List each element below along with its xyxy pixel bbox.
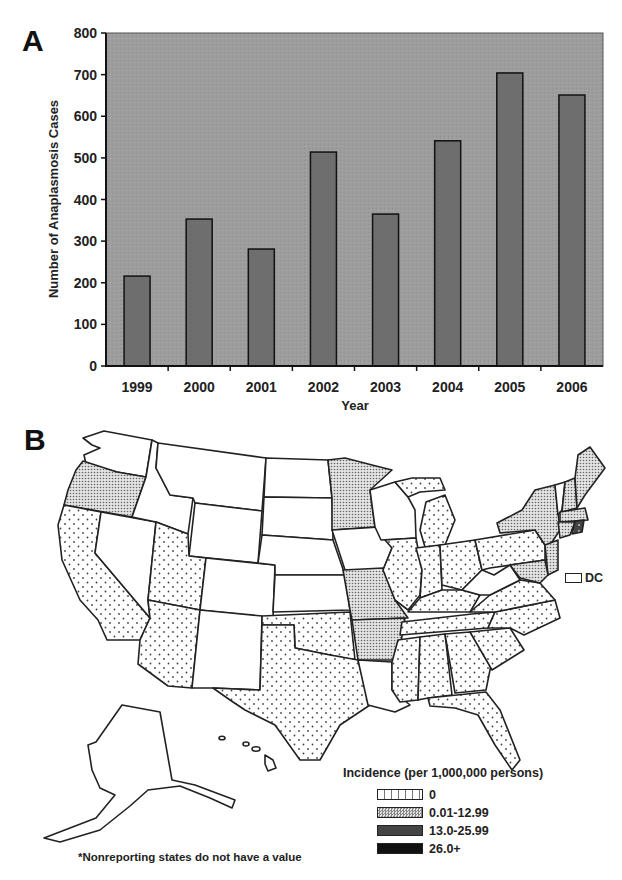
bar-2003 [373, 214, 399, 366]
state-fl [428, 692, 520, 770]
x-tick-label: 2001 [246, 379, 277, 395]
state-ms [392, 637, 420, 702]
legend-label: 26.0+ [429, 842, 461, 856]
y-tick-label: 600 [74, 108, 98, 124]
bar-2004 [435, 141, 461, 366]
state-ak [44, 705, 235, 842]
x-axis-label: Year [341, 398, 368, 413]
state-wy [189, 503, 262, 563]
state-sd [262, 497, 333, 540]
y-axis-label: Number of Anaplasmosis Cases [46, 100, 61, 298]
us-incidence-map [0, 420, 622, 850]
legend-title: Incidence (per 1,000,000 persons) [343, 766, 543, 780]
y-tick-label: 0 [89, 358, 97, 374]
x-tick-label: 2000 [184, 379, 215, 395]
bar-2001 [248, 249, 274, 366]
plot-area [106, 33, 603, 366]
swatch-dark-dots [377, 825, 423, 836]
legend-label: 13.0-25.99 [429, 824, 489, 838]
x-tick-label: 2004 [432, 379, 463, 395]
y-tick-label: 500 [74, 150, 98, 166]
x-tick-label: 2006 [556, 379, 587, 395]
y-tick-label: 300 [74, 233, 98, 249]
footnote: *Nonreporting states do not have a value [78, 851, 302, 863]
state-nd [264, 458, 332, 498]
x-tick-label: 2002 [308, 379, 339, 395]
state-me [575, 447, 605, 508]
dc-legend: DC [565, 571, 603, 585]
state-hi [219, 736, 276, 771]
state-co [200, 558, 275, 618]
y-tick-label: 400 [74, 192, 98, 208]
state-ks [273, 575, 350, 612]
x-tick-label: 2005 [494, 379, 525, 395]
state-mi [420, 495, 455, 547]
bar-2005 [497, 73, 523, 366]
dc-label: DC [585, 571, 603, 585]
bar-2000 [186, 219, 212, 366]
y-tick-label: 100 [74, 316, 98, 332]
legend-label: 0 [429, 788, 436, 802]
state-nm [192, 610, 262, 690]
x-tick-label: 2003 [370, 379, 401, 395]
legend-item: 0.01-12.99 [377, 806, 489, 819]
y-tick-label: 800 [74, 25, 98, 41]
swatch-solid-dark [377, 843, 423, 854]
y-tick-label: 200 [74, 275, 98, 291]
bar-2006 [559, 95, 585, 366]
legend-item: 26.0+ [377, 842, 461, 855]
dc-box [565, 573, 582, 583]
legend-item: 13.0-25.99 [377, 824, 489, 837]
bar-2002 [310, 152, 336, 366]
bar-chart: 0100200300400500600700800 19992000200120… [0, 0, 622, 420]
y-tick-label: 700 [74, 67, 98, 83]
x-tick-label: 1999 [121, 379, 152, 395]
y-axis-ticks: 0100200300400500600700800 [74, 25, 106, 374]
legend-item: 0 [377, 788, 436, 801]
swatch-sparse-dots [377, 789, 423, 800]
legend-label: 0.01-12.99 [429, 806, 489, 820]
x-axis-ticks: 19992000200120022003200420052006 [121, 366, 587, 395]
swatch-dense-dots [377, 807, 423, 818]
bar-1999 [124, 276, 150, 366]
